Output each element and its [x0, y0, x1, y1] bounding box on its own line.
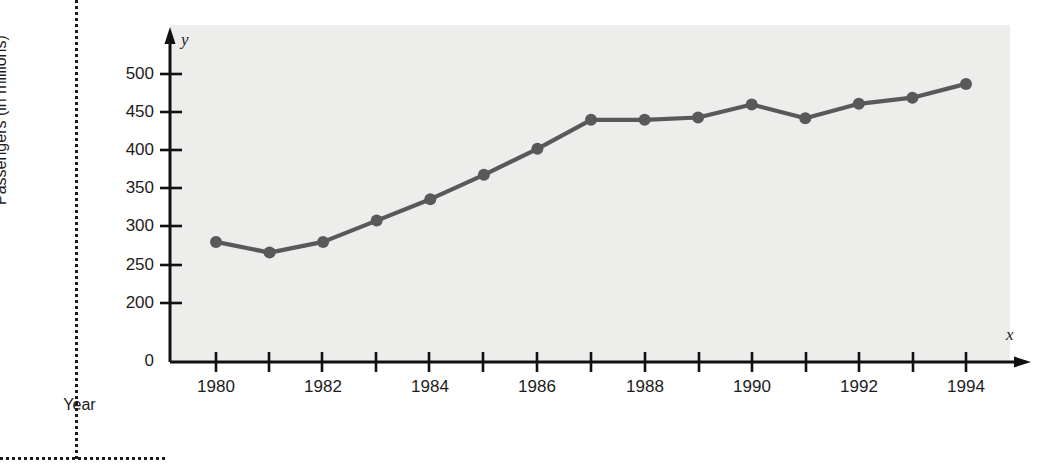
x-axis-title: Year — [0, 396, 1043, 414]
data-point-1991 — [799, 112, 811, 124]
data-series-passengers — [210, 78, 972, 259]
y-tick-label-400: 400 — [94, 140, 154, 160]
x-tick-label-1980: 1980 — [181, 377, 251, 397]
data-point-1986 — [531, 143, 543, 155]
x-axis — [170, 352, 1031, 372]
y-axis-variable-letter: y — [181, 30, 189, 50]
x-tick-label-1986: 1986 — [502, 377, 572, 397]
data-point-1994 — [960, 78, 972, 90]
data-point-1993 — [906, 92, 918, 104]
data-point-1980 — [210, 236, 222, 248]
y-axis — [160, 27, 182, 362]
x-tick-label-1990: 1990 — [717, 377, 787, 397]
data-point-1981 — [264, 247, 276, 259]
data-point-1989 — [692, 112, 704, 124]
y-tick-label-200: 200 — [94, 293, 154, 313]
y-tick-label-450: 450 — [94, 102, 154, 122]
y-tick-label-300: 300 — [94, 216, 154, 236]
data-point-1982 — [317, 236, 329, 248]
data-point-1984 — [424, 193, 436, 205]
data-point-1983 — [371, 215, 383, 227]
data-point-1988 — [639, 114, 651, 126]
x-axis-title-text: Year — [63, 396, 95, 413]
y-tick-label-350: 350 — [94, 178, 154, 198]
y-tick-label-250: 250 — [94, 255, 154, 275]
figure-root: 500 450 400 350 300 250 200 0 1980 1982 … — [0, 0, 1043, 475]
data-point-1985 — [478, 169, 490, 181]
x-tick-label-1992: 1992 — [824, 377, 894, 397]
y-axis-title: Passengers (in millions) — [0, 35, 10, 205]
x-tick-label-1982: 1982 — [288, 377, 358, 397]
data-point-1992 — [853, 98, 865, 110]
data-point-1987 — [585, 114, 597, 126]
y-tick-label-500: 500 — [94, 64, 154, 84]
data-point-1990 — [746, 99, 758, 111]
x-axis-variable-letter: x — [1006, 325, 1014, 345]
x-tick-label-1994: 1994 — [931, 377, 1001, 397]
y-tick-label-0: 0 — [94, 351, 154, 371]
x-tick-label-1988: 1988 — [610, 377, 680, 397]
x-tick-label-1984: 1984 — [395, 377, 465, 397]
